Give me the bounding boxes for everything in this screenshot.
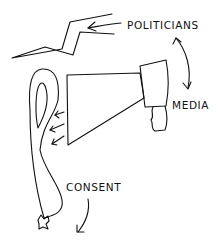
balloon-icon xyxy=(30,69,63,229)
megaphone-icon xyxy=(67,60,168,145)
air-arrows-icon xyxy=(50,111,64,145)
diagram-canvas: POLITICIANS MEDIA CONSENT xyxy=(0,0,221,243)
consent-label: CONSENT xyxy=(66,181,121,193)
politicians-label: POLITICIANS xyxy=(127,19,199,31)
politicians-arrow-icon xyxy=(88,22,121,31)
media-label: MEDIA xyxy=(172,99,209,111)
double-arrow-icon xyxy=(173,38,191,89)
consent-arrow-icon xyxy=(77,199,89,232)
lightning-bolt-icon xyxy=(12,14,114,58)
